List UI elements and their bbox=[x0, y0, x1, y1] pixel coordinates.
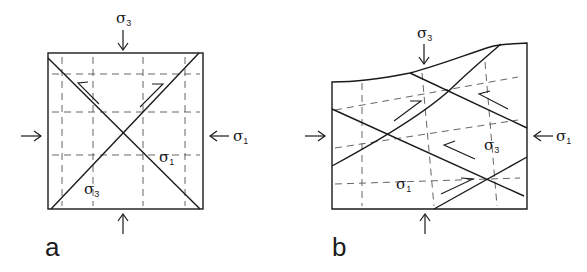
panel-a-arrow-top bbox=[118, 30, 128, 50]
panel-a-arrow-bottom bbox=[118, 214, 128, 234]
panel-a-fracture-sinistral bbox=[48, 58, 200, 209]
panel-b: σ3 σ1 σ3 σ1 b bbox=[305, 24, 571, 262]
panel-b-arrow-bottom bbox=[420, 214, 430, 234]
panel-a-sigma1-inner: σ1 bbox=[159, 148, 174, 167]
panel-b-arrow-top bbox=[419, 44, 429, 64]
panel-a-sigma3-top: σ3 bbox=[116, 9, 131, 28]
panel-b-sigma3-top: σ3 bbox=[417, 24, 432, 43]
panel-a-sigma1-right: σ1 bbox=[233, 127, 248, 146]
panel-b-sigma1-inner: σ1 bbox=[396, 175, 411, 194]
panel-b-shear-arrow-2 bbox=[479, 91, 508, 109]
panel-b-arrow-left bbox=[305, 131, 325, 141]
panel-b-arrow-right bbox=[534, 131, 553, 141]
panel-a-sigma3-inner: σ3 bbox=[84, 180, 99, 199]
panel-a-label: a bbox=[45, 232, 60, 262]
panel-a-arrow-right bbox=[210, 131, 229, 141]
panel-b-shear-arrow-1 bbox=[394, 101, 421, 121]
panel-b-shear-arrow-3 bbox=[444, 141, 475, 159]
panel-b-label: b bbox=[332, 232, 346, 262]
panel-b-sigma3-inner: σ3 bbox=[484, 136, 499, 155]
panel-a-arrow-left bbox=[21, 131, 41, 141]
panel-b-fracture-4 bbox=[434, 157, 527, 209]
panel-b-sigma1-right: σ1 bbox=[556, 127, 571, 146]
figure-canvas: σ3 σ1 σ1 σ3 a bbox=[0, 0, 587, 272]
panel-b-fracture-1 bbox=[410, 73, 527, 128]
panel-b-stress-trajectories bbox=[335, 62, 520, 206]
panel-a: σ3 σ1 σ1 σ3 a bbox=[21, 9, 248, 262]
panel-a-shear-arrow-left bbox=[78, 82, 99, 104]
